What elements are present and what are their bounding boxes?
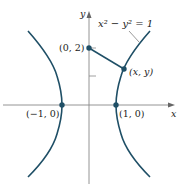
point-label-1-0: (1, 0) [119, 109, 145, 119]
diagram-canvas [0, 0, 181, 192]
equation-leader-line [129, 31, 139, 42]
point-0-2 [86, 45, 91, 50]
x-axis-label: x [171, 109, 176, 119]
point-label-x-y: (x, y) [129, 67, 153, 77]
equation-label: x² − y² = 1 [98, 19, 153, 29]
point-label-0-2: (0, 2) [59, 43, 85, 53]
point-neg1-0 [59, 102, 64, 107]
point-1-0 [113, 102, 118, 107]
hyperbola-left-branch [28, 31, 62, 177]
point-x-y [121, 66, 126, 71]
hyperbola-right-branch [116, 31, 150, 177]
distance-segment [89, 48, 124, 69]
y-axis-arrow-icon [87, 11, 92, 18]
x-axis-arrow-icon [168, 103, 175, 108]
point-label-neg1-0: (−1, 0) [26, 109, 60, 119]
hyperbola-diagram: y x x² − y² = 1 (0, 2) (x, y) (−1, 0) (1… [0, 0, 181, 192]
y-axis-label: y [80, 9, 85, 19]
